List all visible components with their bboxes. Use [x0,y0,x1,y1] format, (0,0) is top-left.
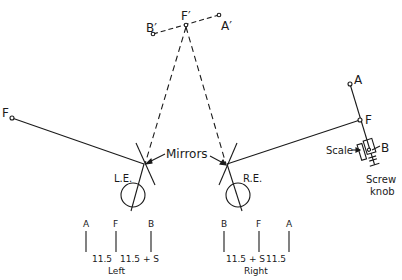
label-f: F [365,113,372,127]
right-virtual-ray [186,27,226,164]
optics-diagram: B′ F′ A′ F A F B Scale Screw knob Mirror… [0,0,402,280]
point-a-prime [217,13,221,17]
left-gap2: 11.5 + S [120,254,159,264]
label-left-f: F [2,106,9,120]
label-scale: Scale [326,145,353,156]
left-mark-f: F [113,219,118,229]
left-virtual-ray [145,27,186,164]
point-a [348,82,352,86]
label-a: A [354,73,363,87]
label-left-eye: L.E. [114,173,132,184]
left-mark-b: B [148,219,154,229]
b-pointer [372,146,380,150]
right-mark-a: A [286,219,293,229]
label-b: B [381,141,389,155]
right-gap1: 11.5 + S [226,254,265,264]
point-f-prime [184,23,188,27]
left-target-point [10,116,14,120]
right-mark-f: F [256,219,261,229]
right-eye [226,183,250,207]
right-gap2: 11.5 [266,254,286,264]
label-a-prime: A′ [221,19,232,33]
right-caption: Right [244,266,268,276]
label-mirrors: Mirrors [166,147,208,161]
left-target-ray [12,118,144,164]
label-f-prime: F′ [181,9,191,23]
label-right-eye: R.E. [243,173,262,184]
left-mark-a: A [83,219,90,229]
left-gap1: 11.5 [92,254,112,264]
left-caption: Left [108,266,125,276]
point-f [358,118,362,122]
right-mark-b: B [221,219,227,229]
label-knob: knob [370,186,395,197]
label-screw: Screw [366,174,396,185]
label-b-prime: B′ [146,21,157,35]
right-target-ray [227,120,360,164]
